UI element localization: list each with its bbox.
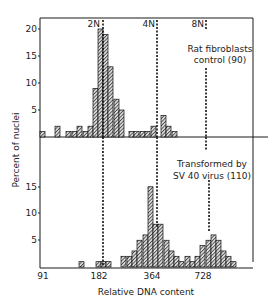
histogram-bar	[129, 132, 134, 137]
xtick-364: 364	[143, 271, 160, 281]
histogram-bar	[226, 256, 231, 267]
histogram-bar	[93, 88, 98, 137]
histogram-bar	[140, 132, 145, 137]
bottom-histogram-bars	[79, 187, 236, 267]
bottom-ytick-5: 5	[31, 235, 37, 245]
histogram-bar	[66, 132, 71, 137]
histogram-bar	[231, 262, 236, 267]
histogram-bar	[172, 132, 177, 137]
bottom-panel-title-line2: SV 40 virus (110)	[173, 171, 251, 181]
histogram-bar	[206, 240, 211, 267]
histogram-bar	[77, 126, 82, 137]
histogram-bar	[143, 235, 148, 267]
top-ytick-10: 10	[26, 78, 38, 88]
histogram-bar	[121, 256, 126, 267]
histogram-bar	[55, 126, 60, 137]
histogram-bar	[108, 67, 113, 137]
histogram-bar	[158, 224, 163, 267]
top-ytick-5: 5	[31, 105, 37, 115]
histogram-bar	[132, 251, 137, 267]
histogram-bar	[190, 262, 195, 267]
marker-8n: 8N	[192, 19, 204, 29]
histogram-bar	[119, 110, 124, 137]
histogram-bar	[83, 132, 88, 137]
histogram-bar	[221, 251, 226, 267]
histogram-bar	[72, 132, 77, 137]
histogram-bar	[40, 132, 45, 137]
dna-histogram-figure: 20 15 10 5 15 10 5 Percent of nuclei 2N …	[0, 0, 268, 306]
histogram-bar	[127, 256, 132, 267]
xtick-728: 728	[194, 271, 211, 281]
top-ytick-20: 20	[26, 24, 38, 34]
marker-2n: 2N	[88, 19, 100, 29]
marker-4n: 4N	[143, 19, 155, 29]
bottom-panel-title-line1: Transformed by	[176, 159, 248, 169]
histogram-bar	[174, 256, 179, 267]
top-y-axis: 20 15 10 5	[26, 24, 40, 115]
histogram-bar	[164, 240, 169, 267]
y-axis-label: Percent of nuclei	[11, 112, 21, 187]
histogram-bar	[137, 240, 142, 267]
histogram-bar	[96, 262, 101, 267]
top-ytick-15: 15	[26, 51, 37, 61]
histogram-bar	[134, 132, 139, 137]
bottom-ytick-15: 15	[26, 182, 37, 192]
histogram-bar	[151, 126, 156, 137]
histogram-bar	[179, 262, 184, 267]
histogram-bar	[153, 224, 158, 267]
bottom-ytick-10: 10	[26, 208, 38, 218]
histogram-bar	[200, 246, 205, 267]
histogram-bar	[169, 251, 174, 267]
xtick-182: 182	[90, 271, 107, 281]
histogram-bar	[114, 99, 119, 137]
histogram-bar	[161, 115, 166, 137]
histogram-bar	[185, 256, 190, 267]
histogram-bar	[79, 262, 84, 267]
top-panel-title-line1: Rat fibroblasts	[188, 44, 253, 54]
histogram-bar	[148, 187, 153, 267]
top-panel-title-line2: control (90)	[194, 55, 247, 65]
histogram-bar	[195, 256, 200, 267]
histogram-bar	[145, 132, 150, 137]
histogram-bar	[106, 262, 111, 267]
bottom-y-axis: 15 10 5	[26, 182, 40, 245]
histogram-bar	[216, 240, 221, 267]
histogram-bar	[211, 235, 216, 267]
histogram-bar	[166, 126, 171, 137]
x-axis-label: Relative DNA content	[98, 287, 195, 297]
histogram-bar	[88, 126, 93, 137]
xtick-91: 91	[37, 271, 48, 281]
